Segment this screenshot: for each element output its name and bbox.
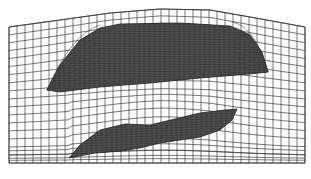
mesh-figure bbox=[0, 0, 311, 179]
grid-line-horizontal bbox=[9, 155, 305, 158]
grid-line-horizontal bbox=[9, 150, 305, 155]
upper-body bbox=[47, 23, 268, 93]
grid-line-horizontal bbox=[9, 159, 305, 161]
body-layer bbox=[47, 22, 268, 158]
mesh-canvas bbox=[0, 0, 311, 179]
grid-line-horizontal bbox=[9, 101, 305, 115]
grid-line-horizontal bbox=[9, 144, 305, 151]
